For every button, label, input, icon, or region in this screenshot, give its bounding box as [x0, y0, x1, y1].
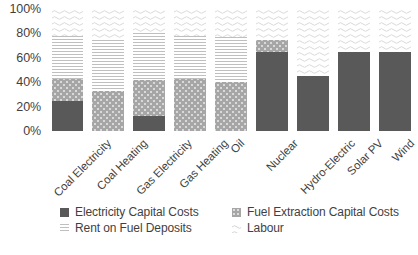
plot-area	[47, 9, 415, 131]
y-axis-tick-80: 80%	[16, 26, 41, 40]
bar-segment-gas-electricity-rent-on-fuel-deposits[interactable]	[133, 33, 165, 79]
legend-item-fuel-extraction-capital-costs[interactable]: Fuel Extraction Capital Costs	[232, 205, 400, 219]
bar-segment-gas-electricity-fuel-extraction-capital-costs[interactable]	[133, 80, 165, 117]
legend-label-labour: Labour	[247, 221, 284, 235]
legend-item-electricity-capital-costs[interactable]: Electricity Capital Costs	[60, 205, 232, 219]
bar-wind[interactable]	[379, 9, 411, 131]
x-axis-label-slot-gas-electricity: Gas Electricity	[129, 133, 170, 195]
chart-legend: Electricity Capital CostsFuel Extraction…	[60, 204, 400, 236]
bar-segment-wind-electricity-capital-costs[interactable]	[379, 52, 411, 131]
x-axis-label-slot-nuclear: Nuclear	[251, 133, 292, 195]
bar-hydro-electric[interactable]	[297, 9, 329, 131]
x-axis-label-slot-solar-pv: Solar PV	[333, 133, 374, 195]
bar-nuclear[interactable]	[256, 9, 288, 131]
legend-swatch-labour	[232, 224, 241, 233]
bar-segment-coal-electricity-electricity-capital-costs[interactable]	[52, 101, 84, 132]
stacked-bar-chart: 0%20%40%60%80%100% Coal ElectricityCoal …	[0, 0, 418, 255]
legend-item-labour[interactable]: Labour	[232, 221, 400, 235]
y-axis-tick-60: 60%	[16, 51, 41, 65]
bar-gas-heating[interactable]	[174, 9, 206, 131]
bar-segment-nuclear-fuel-extraction-capital-costs[interactable]	[256, 40, 288, 52]
bar-segment-gas-heating-fuel-extraction-capital-costs[interactable]	[174, 79, 206, 131]
x-axis-label-slot-coal-electricity: Coal Electricity	[47, 133, 88, 195]
bar-segment-coal-electricity-labour[interactable]	[52, 9, 84, 36]
bar-segment-gas-heating-rent-on-fuel-deposits[interactable]	[174, 36, 206, 79]
bar-solar-pv[interactable]	[338, 9, 370, 131]
bar-segment-hydro-electric-electricity-capital-costs[interactable]	[297, 76, 329, 131]
bar-slot-coal-electricity	[47, 9, 88, 131]
bar-segment-nuclear-labour[interactable]	[256, 9, 288, 40]
legend-label-fuel-extraction-capital-costs: Fuel Extraction Capital Costs	[247, 205, 399, 219]
bar-segment-gas-electricity-labour[interactable]	[133, 9, 165, 33]
bar-segment-coal-electricity-fuel-extraction-capital-costs[interactable]	[52, 79, 84, 101]
x-axis-label-slot-wind: Wind	[374, 133, 415, 195]
legend-swatch-electricity-capital-costs	[60, 208, 69, 217]
bar-slot-hydro-electric	[292, 9, 333, 131]
bar-slot-gas-heating	[170, 9, 211, 131]
legend-swatch-fuel-extraction-capital-costs	[232, 208, 241, 217]
y-axis-tick-40: 40%	[16, 75, 41, 89]
bar-segment-hydro-electric-labour[interactable]	[297, 9, 329, 76]
bar-segment-coal-electricity-rent-on-fuel-deposits[interactable]	[52, 36, 84, 79]
x-axis-label-slot-hydro-electric: Hydro-Electric	[292, 133, 333, 195]
y-axis-tick-100: 100%	[9, 2, 41, 16]
bar-slot-nuclear	[251, 9, 292, 131]
bar-slot-wind	[374, 9, 415, 131]
bar-gas-electricity[interactable]	[133, 9, 165, 131]
legend-swatch-rent-on-fuel-deposits	[60, 224, 69, 233]
y-axis-tick-0: 0%	[23, 124, 41, 138]
bar-coal-heating[interactable]	[92, 9, 124, 131]
bar-segment-oil-rent-on-fuel-deposits[interactable]	[215, 37, 247, 82]
y-axis: 0%20%40%60%80%100%	[0, 0, 46, 140]
bar-segment-coal-heating-fuel-extraction-capital-costs[interactable]	[92, 91, 124, 131]
y-axis-tick-20: 20%	[16, 100, 41, 114]
x-axis-label-slot-gas-heating: Gas Heating	[170, 133, 211, 195]
bar-segment-oil-fuel-extraction-capital-costs[interactable]	[215, 82, 247, 131]
x-axis-label-oil: Oil	[228, 137, 246, 155]
legend-item-rent-on-fuel-deposits[interactable]: Rent on Fuel Deposits	[60, 221, 232, 235]
x-axis-label-wind: Wind	[389, 137, 416, 164]
bar-segment-coal-heating-labour[interactable]	[92, 9, 124, 40]
legend-label-electricity-capital-costs: Electricity Capital Costs	[75, 205, 199, 219]
bar-slot-gas-electricity	[129, 9, 170, 131]
x-axis: Coal ElectricityCoal HeatingGas Electric…	[47, 133, 415, 195]
bar-segment-oil-labour[interactable]	[215, 9, 247, 37]
bar-segment-gas-heating-labour[interactable]	[174, 9, 206, 36]
x-axis-label-slot-coal-heating: Coal Heating	[88, 133, 129, 195]
bar-slot-solar-pv	[333, 9, 374, 131]
bar-coal-electricity[interactable]	[52, 9, 84, 131]
bar-oil[interactable]	[215, 9, 247, 131]
bar-segment-wind-labour[interactable]	[379, 9, 411, 52]
bar-slot-coal-heating	[88, 9, 129, 131]
x-axis-label-slot-oil: Oil	[211, 133, 252, 195]
bar-segment-nuclear-electricity-capital-costs[interactable]	[256, 52, 288, 131]
bar-segment-gas-electricity-electricity-capital-costs[interactable]	[133, 116, 165, 131]
bar-segment-coal-heating-rent-on-fuel-deposits[interactable]	[92, 40, 124, 91]
bar-segment-solar-pv-electricity-capital-costs[interactable]	[338, 52, 370, 131]
bar-segment-solar-pv-labour[interactable]	[338, 9, 370, 52]
bar-slot-oil	[211, 9, 252, 131]
legend-label-rent-on-fuel-deposits: Rent on Fuel Deposits	[75, 221, 192, 235]
plot-wrapper: 0%20%40%60%80%100%	[0, 0, 418, 140]
